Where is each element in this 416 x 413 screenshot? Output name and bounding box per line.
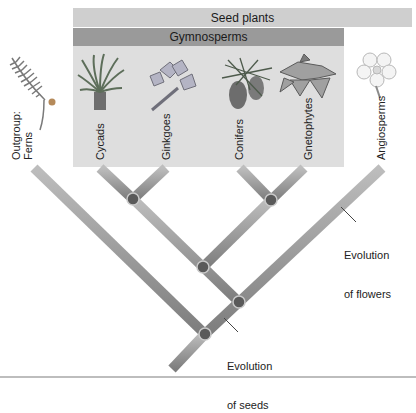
taxon-label-ferns-line2: Ferns [22,111,34,160]
node-conifer-gneto [265,194,277,206]
annotation-flowers-line2: of flowers [344,288,391,301]
node-gymnosperms [197,261,209,273]
taxon-label-gnetophytes: Gnetophytes [302,98,314,160]
node-cycad-ginkgo [127,193,139,205]
branch-gnetophytes [271,168,304,200]
taxon-label-cycads: Cycads [94,123,106,160]
node-root [199,328,211,340]
bottom-divider [0,376,416,378]
annotation-seeds-line2: of seeds [227,399,272,412]
branch-ginkgoes [133,168,166,199]
taxon-label-angiosperms: Angiosperms [375,96,387,160]
branch-cycads [100,168,133,199]
taxon-label-conifers: Conifers [233,119,245,160]
annotation-evolution-of-seeds: Evolution of seeds [227,334,272,413]
taxon-label-ferns-line1: Outgroup: [10,111,22,160]
leader-seeds [224,318,238,332]
gnetophyte-icon [280,54,336,98]
cycad-icon [78,54,124,110]
branch-conifer-gneto [203,200,271,267]
annotation-evolution-of-flowers: Evolution of flowers [344,223,391,314]
node-seed-plants [233,296,245,308]
annotation-flowers-line1: Evolution [344,249,391,262]
branch-root [172,334,205,369]
annotation-seeds-line1: Evolution [227,360,272,373]
taxon-label-ferns: Outgroup: Ferns [10,111,34,160]
taxon-label-ginkgoes: Ginkgoes [160,114,172,160]
ginkgo-icon [150,60,196,110]
leader-flowers [341,207,356,222]
flower-icon [357,53,396,98]
conifer-cone-icon [222,58,272,109]
